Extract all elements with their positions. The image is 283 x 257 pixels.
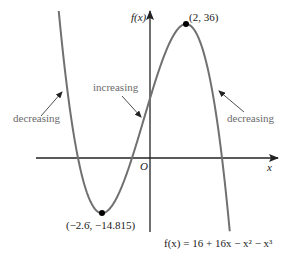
max-point-label: (2, 36): [189, 12, 218, 23]
min-point-marker: [99, 210, 105, 216]
arrow-increasing: [122, 96, 141, 117]
y-axis-label: f(x): [131, 12, 146, 23]
annotation-decreasing-right: decreasing: [227, 113, 274, 124]
function-label: f(x) = 16 + 16x − x² − x³: [164, 238, 272, 249]
min-point-label: (−2.6̇, −14.815): [66, 220, 135, 231]
function-curve: [59, 11, 230, 231]
arrow-right-decreasing: [219, 91, 244, 112]
annotation-decreasing-left: decreasing: [13, 113, 60, 124]
annotation-increasing: increasing: [93, 82, 138, 93]
graph-canvas: [0, 0, 283, 257]
origin-label: O: [140, 161, 148, 172]
x-axis-label: x: [267, 162, 272, 173]
